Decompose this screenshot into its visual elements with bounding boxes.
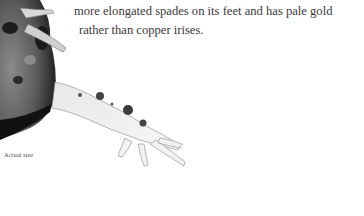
body-paragraph: more elongated spades on its feet and ha… (74, 2, 364, 40)
actual-size-caption: Actual size (4, 151, 33, 158)
paragraph-line-1: more elongated spades on its feet and ha… (74, 2, 364, 21)
paragraph-line-2: rather than copper irises. (74, 21, 364, 40)
